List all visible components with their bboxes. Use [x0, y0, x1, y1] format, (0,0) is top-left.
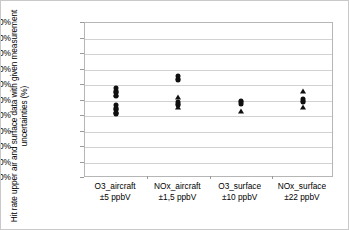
- scatter-chart-figure: Hit rate upper air and surface data with…: [0, 0, 349, 230]
- data-point-circle: [176, 78, 181, 83]
- category-uncertainty: ±1,5 ppbV: [146, 192, 208, 203]
- category-name: NOx_aircraft: [154, 181, 201, 191]
- category-uncertainty: ±22 ppbV: [271, 192, 333, 203]
- x-axis-category-label-3: NOx_surface±22 ppbV: [271, 181, 333, 213]
- gridline: [85, 54, 332, 55]
- x-axis-labels: O3_aircraft±5 ppbVNOx_aircraft±1,5 ppbVO…: [84, 181, 333, 213]
- data-point-triangle: [300, 104, 306, 109]
- data-point-triangle: [300, 89, 306, 94]
- category-name: O3_surface: [218, 181, 261, 191]
- plot-area: [84, 22, 333, 177]
- data-point-triangle: [113, 92, 119, 97]
- gridline: [85, 85, 332, 86]
- x-axis-category-label-1: NOx_aircraft±1,5 ppbV: [146, 181, 208, 213]
- gridline: [85, 70, 332, 71]
- gridline: [85, 132, 332, 133]
- x-axis-category-separator: [272, 176, 273, 179]
- category-uncertainty: ±5 ppbV: [84, 192, 146, 203]
- y-axis-title: Hit rate upper air and surface data with…: [1, 1, 39, 230]
- data-point-circle: [238, 101, 243, 106]
- data-point-triangle: [113, 109, 119, 114]
- data-point-triangle: [175, 95, 181, 100]
- x-axis-category-separator: [147, 176, 148, 179]
- data-point-triangle: [175, 104, 181, 109]
- gridline: [85, 147, 332, 148]
- x-axis-category-label-2: O3_surface±10 ppbV: [209, 181, 271, 213]
- data-point-triangle: [238, 109, 244, 114]
- category-uncertainty: ±10 ppbV: [209, 192, 271, 203]
- gridline: [85, 116, 332, 117]
- x-axis-category-separator: [210, 176, 211, 179]
- y-axis-tick-mark: [80, 177, 84, 178]
- gridline: [85, 163, 332, 164]
- category-name: O3_aircraft: [95, 181, 136, 191]
- x-axis-category-label-0: O3_aircraft±5 ppbV: [84, 181, 146, 213]
- gridline: [85, 39, 332, 40]
- gridline: [85, 101, 332, 102]
- category-name: NOx_surface: [278, 181, 326, 191]
